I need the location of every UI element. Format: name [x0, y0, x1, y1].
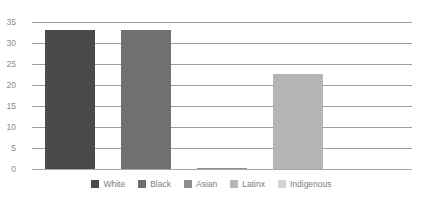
legend-swatch-icon — [91, 180, 99, 188]
y-axis-tick-label: 30 — [0, 39, 16, 48]
legend-item-latinx[interactable]: Latinx — [230, 180, 265, 189]
bar-black — [121, 30, 171, 169]
legend-label: Indigenous — [290, 180, 332, 189]
legend-swatch-icon — [138, 180, 146, 188]
gridline — [32, 22, 412, 23]
legend-swatch-icon — [184, 180, 192, 188]
y-axis-tick-label: 10 — [0, 123, 16, 132]
gridline — [32, 169, 412, 170]
y-axis-tick-label: 25 — [0, 60, 16, 69]
legend-item-black[interactable]: Black — [138, 180, 171, 189]
legend-label: Latinx — [242, 180, 265, 189]
legend-label: White — [103, 180, 125, 189]
legend-item-asian[interactable]: Asian — [184, 180, 217, 189]
legend-label: Black — [150, 180, 171, 189]
y-axis-tick-label: 35 — [0, 18, 16, 27]
legend-label: Asian — [196, 180, 217, 189]
plot-area: 35302520151050 — [32, 22, 412, 169]
bar-white — [45, 30, 95, 169]
chart-legend: WhiteBlackAsianLatinxIndigenous — [0, 180, 423, 189]
y-axis-tick-label: 0 — [0, 165, 16, 174]
y-axis-tick-label: 5 — [0, 144, 16, 153]
legend-item-white[interactable]: White — [91, 180, 125, 189]
y-axis-tick-label: 15 — [0, 102, 16, 111]
legend-swatch-icon — [278, 180, 286, 188]
chart-title — [0, 0, 423, 2]
legend-item-indigenous[interactable]: Indigenous — [278, 180, 332, 189]
bar-asian — [197, 168, 247, 169]
legend-swatch-icon — [230, 180, 238, 188]
y-axis-tick-label: 20 — [0, 81, 16, 90]
bar-latinx — [273, 74, 323, 169]
bar-chart: 35302520151050 WhiteBlackAsianLatinxIndi… — [0, 0, 423, 206]
